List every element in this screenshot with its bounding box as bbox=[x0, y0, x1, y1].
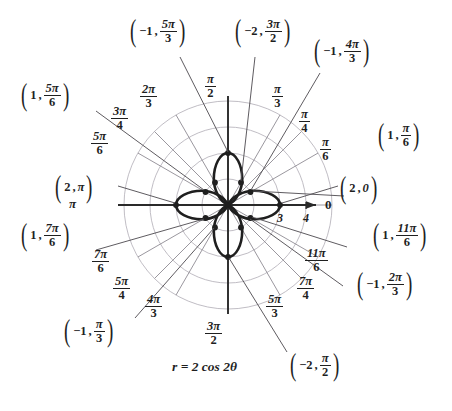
theta-value: π bbox=[78, 181, 85, 194]
polar-axis-arrowhead bbox=[306, 201, 316, 209]
angle-label-3pi-over-2: 3π2 bbox=[205, 320, 222, 347]
theta-den: 6 bbox=[44, 96, 61, 109]
theta-den: 3 bbox=[94, 332, 105, 345]
point-label-neg1-4pi3: ( −1 , 4π3 ) bbox=[312, 38, 371, 65]
point-label-1-7pi6: ( 1 , 7π6 ) bbox=[19, 222, 71, 249]
point-neg1-5pi3 bbox=[238, 225, 244, 231]
r-value: −2 bbox=[298, 359, 313, 372]
polar-axes bbox=[118, 96, 316, 314]
radial-tick-label-4: 4 bbox=[303, 212, 309, 224]
point-label-neg1-5pi3: ( −1 , 5π3 ) bbox=[128, 18, 187, 45]
equation-caption: r = 2 cos 2θ bbox=[172, 360, 237, 374]
angle-label-11pi-over-6: 11π6 bbox=[305, 247, 328, 274]
point-1-7pi6 bbox=[203, 215, 209, 221]
paren-close: ) bbox=[371, 179, 377, 198]
r-value: 2 bbox=[63, 181, 71, 194]
point-label-neg1-2pi3: ( −1 , 2π3 ) bbox=[355, 271, 414, 298]
theta-den: 6 bbox=[396, 236, 419, 249]
paren-close: ) bbox=[284, 22, 290, 41]
paren-close: ) bbox=[106, 322, 112, 341]
angle-label-5pi-over-6: 5π6 bbox=[91, 130, 108, 157]
r-value: 1 bbox=[29, 89, 37, 102]
paren-open: ( bbox=[314, 42, 320, 61]
theta-num: 2π bbox=[387, 271, 404, 285]
theta-den: 6 bbox=[401, 136, 412, 149]
theta-num: 7π bbox=[44, 222, 61, 236]
point-1-pi6 bbox=[248, 189, 254, 195]
paren-close: ) bbox=[363, 42, 369, 61]
point-label-1-5pi6: ( 1 , 5π6 ) bbox=[19, 82, 71, 109]
paren-close: ) bbox=[406, 275, 412, 294]
paren-open: ( bbox=[21, 86, 27, 105]
angle-label-4pi-over-3: 4π3 bbox=[145, 293, 162, 320]
theta-den: 3 bbox=[160, 32, 177, 45]
angle-label-pi-over-3: π3 bbox=[272, 83, 283, 110]
paren-open: ( bbox=[290, 356, 296, 375]
paren-open: ( bbox=[130, 22, 136, 41]
paren-open: ( bbox=[357, 275, 363, 294]
theta-den: 3 bbox=[387, 285, 404, 298]
point-label-2-0: ( 2 , 0 ) bbox=[338, 179, 379, 201]
theta-num: 5π bbox=[160, 18, 177, 32]
paren-open: ( bbox=[21, 226, 27, 245]
paren-close: ) bbox=[63, 226, 69, 245]
theta-num: π bbox=[94, 318, 105, 332]
angle-label-3pi-over-4: 3π4 bbox=[111, 105, 128, 132]
theta-value: 0 bbox=[363, 182, 369, 195]
angle-label-pi-over-4: π4 bbox=[299, 108, 310, 135]
r-value: −2 bbox=[243, 25, 258, 38]
theta-num: π bbox=[320, 352, 331, 366]
angle-label-5pi-over-3: 5π3 bbox=[266, 293, 283, 320]
theta-den: 2 bbox=[320, 366, 331, 379]
polar-plot-canvas bbox=[0, 0, 452, 411]
paren-close: ) bbox=[332, 356, 338, 375]
polar-rose-figure: π2 2π3 3π4 5π6 7π6 5π4 4π3 3π2 5π3 7π4 1… bbox=[0, 0, 452, 411]
paren-open: ( bbox=[235, 22, 241, 41]
leader-p-2-pi bbox=[118, 186, 175, 203]
point-label-2-pi: ( 2 , π ) bbox=[53, 178, 95, 200]
polar-axis-label-0: 0 bbox=[325, 198, 332, 211]
theta-den: 2 bbox=[265, 32, 282, 45]
r-value: 2 bbox=[348, 182, 356, 195]
r-value: −1 bbox=[138, 25, 153, 38]
theta-num: 5π bbox=[44, 82, 61, 96]
leader-p-neg1-5pi3 bbox=[180, 57, 228, 152]
angle-label-pi-over-2: π2 bbox=[205, 73, 216, 100]
paren-close: ) bbox=[179, 22, 185, 41]
radial-tick-label-3: 3 bbox=[277, 212, 283, 224]
point-label-neg1-pi3: ( −1 , π3 ) bbox=[62, 318, 115, 345]
r-value: −1 bbox=[72, 325, 87, 338]
paren-open: ( bbox=[378, 126, 384, 145]
theta-den: 6 bbox=[44, 236, 61, 249]
r-value: 1 bbox=[381, 229, 389, 242]
point-label-1-11pi6: ( 1 , 11π6 ) bbox=[371, 222, 428, 249]
point-label-1-pi6: ( 1 , π6 ) bbox=[376, 122, 422, 149]
paren-close: ) bbox=[86, 178, 92, 197]
theta-num: 4π bbox=[344, 38, 361, 52]
angle-label-2pi-over-3: 2π3 bbox=[140, 83, 157, 110]
leader-p-1-11pi6 bbox=[252, 217, 347, 247]
theta-num: 11π bbox=[396, 222, 419, 236]
point-neg1-2pi3 bbox=[212, 180, 218, 186]
r-value: −1 bbox=[365, 278, 380, 291]
point-label-neg2-pi2: ( −2 , π2 ) bbox=[288, 352, 341, 379]
paren-open: ( bbox=[55, 178, 61, 197]
paren-close: ) bbox=[413, 126, 419, 145]
point-label-neg2-3pi2: ( −2 , 3π2 ) bbox=[233, 18, 292, 45]
r-value: 1 bbox=[386, 129, 394, 142]
angle-label-pi-over-6: π6 bbox=[320, 136, 331, 163]
paren-open: ( bbox=[340, 179, 346, 198]
paren-open: ( bbox=[64, 322, 70, 341]
theta-num: π bbox=[401, 122, 412, 136]
point-1-11pi6 bbox=[248, 215, 254, 221]
paren-close: ) bbox=[63, 86, 69, 105]
angle-label-7pi-over-4: 7π4 bbox=[297, 275, 314, 302]
theta-den: 3 bbox=[344, 52, 361, 65]
angle-label-5pi-over-4: 5π4 bbox=[113, 275, 130, 302]
angle-label-7pi-over-6: 7π6 bbox=[92, 248, 109, 275]
r-value: 1 bbox=[29, 229, 37, 242]
paren-close: ) bbox=[420, 226, 426, 245]
paren-open: ( bbox=[373, 226, 379, 245]
theta-num: 3π bbox=[265, 18, 282, 32]
r-value: −1 bbox=[322, 45, 337, 58]
